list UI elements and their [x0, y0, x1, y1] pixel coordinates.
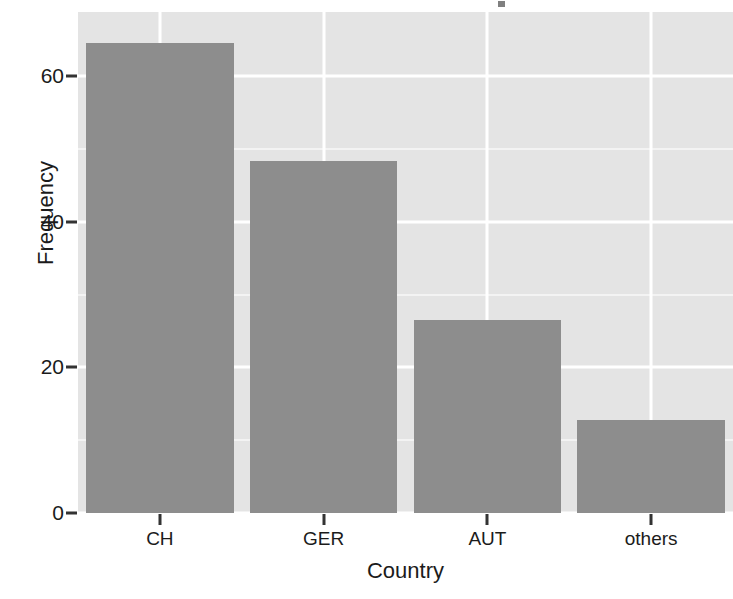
y-tick-mark: [66, 75, 77, 78]
x-tick-label-aut: AUT: [407, 528, 567, 550]
cropped-title-artifact: [498, 1, 505, 7]
x-tick-mark: [486, 514, 489, 525]
bar-aut: [414, 320, 561, 513]
x-tick-mark: [158, 514, 161, 525]
y-tick-mark: [66, 512, 77, 515]
y-tick-label: 40: [18, 210, 64, 234]
y-tick-label: 0: [18, 501, 64, 525]
bar-ger: [250, 161, 397, 513]
x-tick-mark: [322, 514, 325, 525]
x-tick-mark: [650, 514, 653, 525]
bar-chart: Frequency 0204060 CHGERAUTothers Country: [0, 0, 733, 599]
bar-ch: [86, 43, 233, 513]
x-tick-label-ger: GER: [244, 528, 404, 550]
x-tick-label-others: others: [571, 528, 731, 550]
x-tick-label-ch: CH: [80, 528, 240, 550]
y-tick-label: 20: [18, 355, 64, 379]
bar-others: [577, 420, 724, 513]
y-tick-mark: [66, 220, 77, 223]
plot-panel: [78, 12, 733, 513]
y-tick-label: 60: [18, 64, 64, 88]
y-tick-mark: [66, 366, 77, 369]
y-axis-ticks: 0204060: [14, 0, 64, 599]
x-axis-title: Country: [78, 558, 733, 584]
